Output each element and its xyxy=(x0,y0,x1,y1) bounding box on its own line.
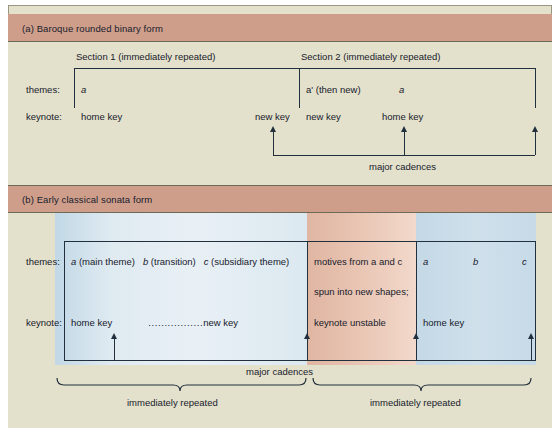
panel-b-brace-left xyxy=(55,376,311,392)
panel-a-arrow-2-head xyxy=(401,126,407,132)
panel-b-brace-right xyxy=(311,376,536,392)
panel-b-arrow-1-head xyxy=(111,333,117,339)
panel-b-keynote-development: keynote unstable xyxy=(314,318,386,328)
panel-b-title: (b) Early classical sonata form xyxy=(22,194,152,205)
panel-a-section1-header: Section 1 (immediately repeated) xyxy=(76,52,215,62)
panel-b-arrow-3-stem xyxy=(416,339,418,360)
panel-b-body: Exposition Development Recapitulation th… xyxy=(8,213,552,428)
panel-a-themes-label: themes: xyxy=(26,85,60,95)
panel-b-arrow-4-head xyxy=(528,333,534,339)
panel-a-keynote-home-1: home key xyxy=(81,112,122,122)
panel-a-cadence-baseline xyxy=(273,155,535,156)
panel-a-theme-s1-a: a xyxy=(81,85,86,95)
panel-b-theme-recap-a: a xyxy=(423,257,428,267)
panel-b-brace-left-label: immediately repeated xyxy=(127,398,218,408)
panel-a-body: Section 1 (immediately repeated) Section… xyxy=(8,42,552,185)
panel-b-keynote-exp-new: new key xyxy=(203,317,238,328)
panel-b-arrow-1-stem xyxy=(114,339,116,360)
panel-a-arrow-1-stem xyxy=(273,132,275,155)
panel-b-theme-exp-b-rest: (transition) xyxy=(148,256,196,267)
panel-a-arrow-2-stem xyxy=(404,132,406,155)
panel-a-keynote-new-1: new key xyxy=(255,112,290,122)
panel-b-arrow-3-head xyxy=(413,333,419,339)
panel-b-theme-recap-c: c xyxy=(522,257,527,267)
panel-b-theme-exp-a-rest: (main theme) xyxy=(76,256,135,267)
figure-page: (a) Baroque rounded binary form Section … xyxy=(8,5,552,428)
panel-a-theme-s2-aprime: aʹ (then new) xyxy=(306,85,361,95)
panel-b-arrow-2-stem xyxy=(307,339,309,360)
panel-a-mid-divider xyxy=(299,68,300,108)
panel-b-theme-exposition: a (main theme)b (transition)c (subsidiar… xyxy=(71,257,289,267)
panel-a-right-divider xyxy=(535,68,536,108)
panel-b-keynote-recapitulation: home key xyxy=(423,318,464,328)
panel-b-theme-exp-c-rest: (subsidiary theme) xyxy=(208,256,289,267)
panel-a-title: (a) Baroque rounded binary form xyxy=(22,22,163,33)
panel-a-arrow-3-stem xyxy=(535,132,537,155)
panel-b-keynote-exp-home: home key xyxy=(71,317,112,328)
panel-a-band: (a) Baroque rounded binary form xyxy=(8,14,552,42)
panel-a-keynote-home-2: home key xyxy=(382,112,423,122)
panel-b-keynote-exp-dots: ................. xyxy=(148,317,203,328)
panel-b-brace-right-label: immediately repeated xyxy=(370,398,461,408)
panel-b-keynote-exposition: home key.................new key xyxy=(71,318,238,328)
panel-b-arrow-2-head xyxy=(304,333,310,339)
panel-b-keynote-label: keynote: xyxy=(26,318,62,328)
panel-b-themes-label: themes: xyxy=(26,257,60,267)
panel-b-theme-development-l2: spun into new shapes; xyxy=(314,287,409,297)
panel-b-cadence-baseline xyxy=(114,360,531,361)
panel-a-cadence-label: major cadences xyxy=(369,162,436,172)
panel-b-theme-recap-b: b xyxy=(473,257,478,267)
panel-a-theme-s2-a: a xyxy=(399,85,404,95)
panel-a-arrow-1-head xyxy=(270,126,276,132)
panel-a-keynote-label: keynote: xyxy=(26,112,62,122)
figure-root: (a) Baroque rounded binary form Section … xyxy=(0,0,560,433)
panel-b-theme-development-l1: motives from a and c xyxy=(314,257,402,267)
panel-b-band: (b) Early classical sonata form xyxy=(8,185,552,213)
panel-b-arrow-4-stem xyxy=(531,339,533,360)
panel-a-left-divider xyxy=(74,68,75,108)
panel-a-top-rule xyxy=(74,68,536,69)
panel-a-arrow-3-head xyxy=(532,126,538,132)
panel-a-section2-header: Section 2 (immediately repeated) xyxy=(301,52,440,62)
panel-a-keynote-new-2: new key xyxy=(306,112,341,122)
